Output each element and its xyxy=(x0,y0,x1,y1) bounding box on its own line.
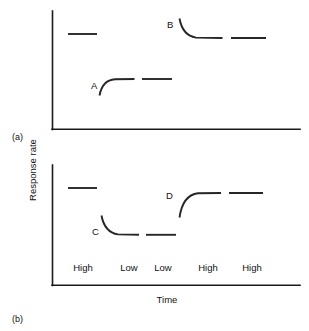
x-tick-label-3: Low xyxy=(154,262,172,273)
response-rate-time-figure: A B (a) Response rate C D High Low xyxy=(0,0,309,331)
x-axis-title: Time xyxy=(157,294,178,305)
panel-label-a: (a) xyxy=(12,132,23,142)
panel-b-curve-c xyxy=(102,216,140,235)
x-tick-label-2: Low xyxy=(120,262,138,273)
y-axis-title: Response rate xyxy=(27,139,38,201)
panel-b: C D High Low Low High High Time (b) xyxy=(12,165,300,324)
panel-label-b: (b) xyxy=(12,314,23,324)
curve-label-a: A xyxy=(91,80,98,91)
curve-label-c: C xyxy=(92,226,99,237)
panel-a-curve-b xyxy=(180,19,223,39)
x-tick-label-5: High xyxy=(242,262,262,273)
figure-container: A B (a) Response rate C D High Low xyxy=(0,0,309,331)
x-tick-label-1: High xyxy=(73,262,93,273)
panel-a: A B (a) xyxy=(12,11,300,142)
curve-label-b: B xyxy=(167,19,173,30)
x-tick-label-4: High xyxy=(198,262,218,273)
panel-b-curve-d xyxy=(180,193,222,218)
curve-label-d: D xyxy=(166,190,173,201)
panel-a-curve-a xyxy=(100,79,135,96)
